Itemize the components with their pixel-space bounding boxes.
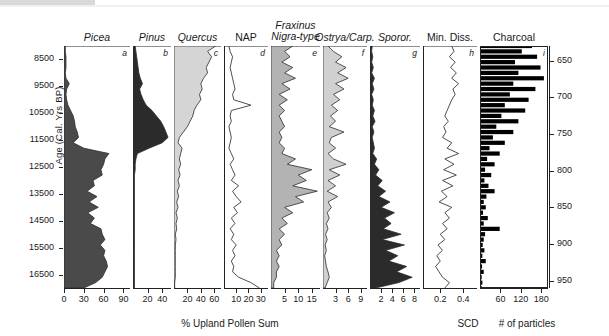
panel-curve-nap [224,46,268,288]
charcoal-bar [481,108,525,112]
x-tick-mark [298,289,299,293]
x-axis-line-picea [64,288,130,289]
charcoal-bar [481,130,513,134]
x-tick-mark [64,289,65,293]
panel-area [323,46,348,288]
panel-curve-min_diss [423,46,477,288]
x-tick-mark [463,289,464,293]
panel-letter-fraxinus: e [312,48,317,58]
x-tick-mark [403,289,404,293]
age-tick-mark [59,86,63,87]
depth-tick-mark [550,97,554,98]
charcoal-bar [481,205,486,209]
age-tick-mark [59,221,63,222]
charcoal-bar [481,221,484,225]
x-tick-mark [440,289,441,293]
panel-letter-ostrya: f [362,48,364,58]
depth-tick-label: 850 [557,202,572,211]
x-tick-label: 120 [510,295,532,304]
panel-nap: d [224,46,268,288]
panel-curve-sporor [370,46,420,288]
age-tick-mark [59,113,63,114]
depth-tick-mark [550,281,554,282]
panel-pinus: b [133,46,171,288]
panel-letter-sporor: g [412,48,417,58]
charcoal-bar [481,259,486,263]
charcoal-bar [481,281,482,285]
depth-tick-mark [550,207,554,208]
x-tick-mark [187,289,188,293]
age-tick-mark [59,59,63,60]
charcoal-bar [481,135,493,139]
panel-curve-pinus [133,46,171,288]
charcoal-bar [481,125,496,129]
x-unit-charcoal: # of particles [487,318,567,329]
x-tick-label: 60 [489,295,511,304]
age-tick-mark [59,167,63,168]
x-tick-mark [261,289,262,293]
charcoal-bar [481,238,484,242]
x-tick-mark [104,289,105,293]
x-unit-pollen: % Upland Pollen Sum [150,318,310,329]
charcoal-bar [481,173,491,177]
panel-picea: a [64,46,130,288]
charcoal-bar [481,232,485,236]
depth-tick-label: 700 [557,92,572,101]
charcoal-bar [481,275,482,279]
depth-tick-label: 650 [557,56,572,65]
panel-curve-ostrya [323,46,367,288]
x-tick-mark [84,289,85,293]
panel-letter-picea: a [122,48,127,58]
x-tick-mark [381,289,382,293]
x-tick-mark [148,289,149,293]
age-tick-label: 10500 [8,108,54,117]
panel-quercus: c [174,46,221,288]
charcoal-bar [481,211,483,215]
panel-letter-quercus: c [214,48,218,58]
x-tick-label: 90 [112,295,134,304]
charcoal-bar [481,65,541,69]
charcoal-bar [481,243,483,247]
panel-curve-fraxinus [271,46,320,288]
charcoal-bar [481,103,505,107]
panel-letter-min_diss: h [469,48,474,58]
panel-letter-nap: d [260,48,265,58]
charcoal-bar [481,119,518,123]
x-tick-mark [248,289,249,293]
depth-tick-label: 800 [557,166,572,175]
charcoal-bar [481,82,513,86]
age-tick-mark [59,275,63,276]
depth-tick-mark [550,171,554,172]
age-tick-mark [59,248,63,249]
age-tick-label: 9500 [8,81,54,90]
age-tick-label: 8500 [8,54,54,63]
charcoal-bar [481,71,518,75]
depth-tick-mark [550,134,554,135]
panel-min_diss: h [423,46,477,288]
x-tick-mark [214,289,215,293]
age-tick-label: 14500 [8,216,54,225]
x-tick-label: 0.4 [452,295,474,304]
x-axis-line-charcoal [480,288,548,289]
x-tick-mark [414,289,415,293]
panel-line [436,46,459,288]
age-tick-label: 11500 [8,135,54,144]
charcoal-bar [481,55,537,59]
x-tick-mark [236,289,237,293]
age-tick-label: 13500 [8,189,54,198]
x-tick-mark [336,289,337,293]
x-tick-label: 8 [403,295,425,304]
charcoal-bar [481,184,488,188]
panel-letter-pinus: b [163,48,168,58]
panel-area [174,46,216,288]
depth-tick-label: 950 [557,276,572,285]
image-edge-rule [0,5,609,7]
charcoal-bar [481,270,484,274]
depth-tick-mark [550,244,554,245]
panel-area [271,46,317,288]
age-tick-label: 12500 [8,162,54,171]
age-tick-mark [59,194,63,195]
charcoal-bar [481,189,495,193]
x-tick-label: 30 [250,295,272,304]
panel-line [229,46,260,288]
